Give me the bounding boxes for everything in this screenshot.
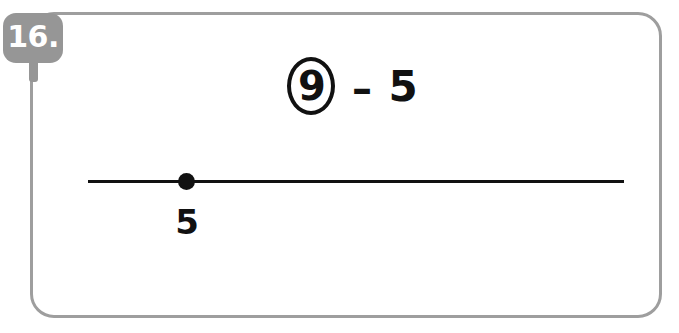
problem-number-badge: 16. — [3, 13, 63, 63]
minus-operator: – — [341, 63, 383, 115]
circled-operand-value: 9 — [285, 55, 339, 117]
number-line-point-label: 5 — [168, 205, 206, 239]
worksheet-page: 16. 9 – 5 5 — [0, 0, 679, 333]
number-line-axis — [88, 180, 624, 183]
circled-operand-group: 9 — [285, 55, 339, 117]
second-operand-value: 5 — [383, 61, 423, 113]
number-line-point-marker — [178, 173, 195, 190]
number-line: 5 — [88, 150, 624, 250]
problem-number-label: 16. — [3, 13, 63, 63]
math-expression: 9 – 5 — [285, 55, 445, 125]
